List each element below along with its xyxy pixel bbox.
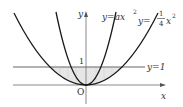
wide-parabola-label: y= 1 4 x 2: [137, 10, 176, 28]
svg-text:y=: y=: [137, 16, 151, 26]
svg-text:2: 2: [172, 12, 176, 19]
svg-text:1: 1: [159, 10, 163, 18]
svg-text:4: 4: [159, 20, 164, 28]
svg-text:2: 2: [133, 8, 137, 15]
diagram-canvas: y x O 1 y=ax 2 y= 1 4 x 2 y=1: [0, 0, 183, 107]
narrow-parabola-label: y=ax 2: [101, 8, 137, 22]
y-axis-arrow-icon: [84, 11, 88, 17]
y-axis-label: y: [77, 9, 84, 19]
tick-label-one: 1: [79, 57, 84, 66]
svg-text:y=ax: y=ax: [101, 12, 125, 22]
origin-label: O: [77, 87, 84, 97]
x-axis-label: x: [161, 91, 166, 101]
svg-text:x: x: [166, 16, 171, 26]
x-axis-arrow-icon: [160, 83, 166, 87]
line-y-equals-1-label: y=1: [146, 62, 165, 72]
